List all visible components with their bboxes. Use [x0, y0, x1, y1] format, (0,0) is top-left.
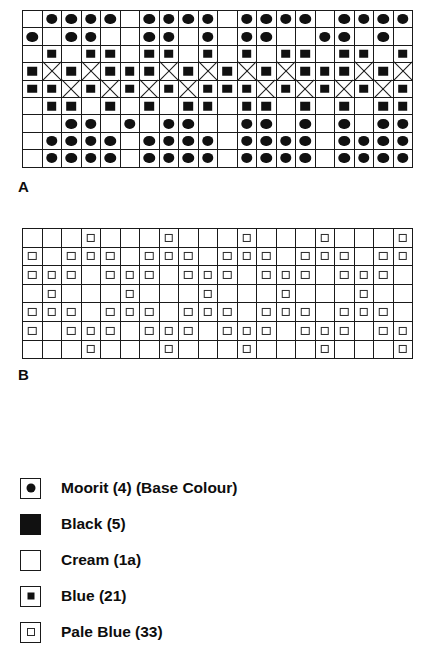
chart-cell [199, 303, 219, 322]
chart-cell [160, 63, 180, 80]
chart-cell [82, 248, 102, 267]
chart-cell [394, 248, 414, 267]
legend-label: Black (5) [61, 515, 126, 533]
chart-cell [101, 248, 121, 267]
chart-cell [160, 303, 180, 322]
chart-cell [316, 150, 336, 167]
chart-cell [23, 303, 43, 322]
chart-cell [355, 229, 375, 248]
chart-cell [257, 266, 277, 285]
chart-cell [179, 229, 199, 248]
chart-cell [355, 303, 375, 322]
chart-cell [62, 341, 82, 360]
chart-cell [374, 46, 394, 63]
chart-cell [374, 28, 394, 45]
chart-cell [335, 150, 355, 167]
chart-cell [199, 248, 219, 267]
chart-cell [121, 81, 141, 98]
chart-cell [296, 285, 316, 304]
chart-cell [140, 248, 160, 267]
chart-cell [374, 81, 394, 98]
chart-cell [218, 98, 238, 115]
chart-cell [43, 28, 63, 45]
chart-cell [394, 63, 414, 80]
chart-cell [218, 341, 238, 360]
chart-cell [43, 46, 63, 63]
chart-cell [82, 150, 102, 167]
chart-cell [238, 115, 258, 132]
chart-cell [121, 115, 141, 132]
chart-cell [82, 229, 102, 248]
chart-cell [160, 11, 180, 28]
chart-cell [62, 46, 82, 63]
chart-cell [62, 98, 82, 115]
chart-cell [238, 266, 258, 285]
chart-cell [140, 11, 160, 28]
legend-label: Cream (1a) [61, 551, 141, 569]
chart-cell [62, 248, 82, 267]
chart-cell [82, 46, 102, 63]
chart-cell [121, 63, 141, 80]
legend-row: Pale Blue (33) [20, 614, 415, 650]
chart-cell [355, 28, 375, 45]
chart-cell [238, 98, 258, 115]
chart-cell [199, 341, 219, 360]
chart-cell [316, 266, 336, 285]
chart-cell [394, 28, 414, 45]
chart-cell [316, 285, 336, 304]
chart-cell [179, 63, 199, 80]
chart-cell [101, 81, 121, 98]
chart-cell [394, 229, 414, 248]
small-open-square-in-box-icon [20, 622, 41, 643]
chart-cell [257, 248, 277, 267]
chart-cell [140, 285, 160, 304]
chart-cell [277, 28, 297, 45]
chart-cell [101, 150, 121, 167]
chart-cell [355, 285, 375, 304]
chart-cell [160, 341, 180, 360]
chart-cell [218, 229, 238, 248]
chart-cell [335, 285, 355, 304]
chart-cell [257, 63, 277, 80]
chart-cell [335, 81, 355, 98]
chart-cell [296, 322, 316, 341]
chart-cell [140, 322, 160, 341]
chart-cell [394, 133, 414, 150]
chart-cell [218, 248, 238, 267]
chart-cell [43, 63, 63, 80]
chart-cell [121, 266, 141, 285]
chart-cell [23, 322, 43, 341]
chart-cell [82, 63, 102, 80]
chart-cell [82, 322, 102, 341]
chart-cell [218, 303, 238, 322]
chart-cell [374, 133, 394, 150]
chart-cell [238, 81, 258, 98]
chart-cell [199, 115, 219, 132]
chart-cell [179, 303, 199, 322]
chart-cell [355, 98, 375, 115]
chart-cell [316, 115, 336, 132]
chart-cell [140, 266, 160, 285]
chart-cell [394, 266, 414, 285]
chart-cell [277, 285, 297, 304]
legend-row: Cream (1a) [20, 542, 415, 578]
chart-cell [218, 150, 238, 167]
chart-cell [23, 150, 43, 167]
chart-cell [82, 11, 102, 28]
chart-cell [82, 81, 102, 98]
chart-cell [316, 229, 336, 248]
chart-cell [316, 28, 336, 45]
chart-cell [121, 322, 141, 341]
chart-cell [62, 150, 82, 167]
chart-cell [23, 341, 43, 360]
chart-cell [277, 150, 297, 167]
chart-cell [199, 322, 219, 341]
chart-cell [355, 322, 375, 341]
chart-cell [140, 115, 160, 132]
chart-cell [394, 98, 414, 115]
chart-cell [179, 150, 199, 167]
chart-cell [43, 133, 63, 150]
empty-box-icon [20, 550, 41, 571]
chart-cell [257, 11, 277, 28]
chart-cell [257, 115, 277, 132]
